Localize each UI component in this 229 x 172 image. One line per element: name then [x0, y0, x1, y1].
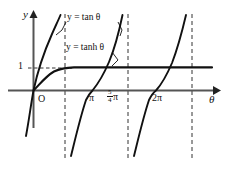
fraction-denominator: 4: [107, 96, 113, 104]
plot-canvas: [0, 0, 229, 172]
curve-label-tanh: y = tanh θ: [66, 43, 104, 53]
curve-tan-branch-2: [71, 15, 123, 156]
origin-label: O: [38, 94, 45, 104]
x-tick-label-five-quarter-pi: 5 4 π: [107, 89, 118, 104]
x-axis-label: θ: [209, 94, 214, 105]
y-tick-label-one: 1: [18, 61, 23, 71]
x-tick-label-two-pi: 2π: [152, 93, 162, 103]
fraction-pi-symbol: π: [113, 91, 118, 102]
y-axis-arrowhead: [30, 10, 38, 18]
x-tick-label-pi: π: [89, 93, 94, 103]
y-axis-label: y: [23, 9, 28, 20]
asymptote-lines: [65, 14, 192, 160]
fraction-numerator: 5: [107, 89, 113, 96]
math-figure: y θ O 1 π 5 4 π 2π y = tan θ y = tanh θ: [0, 0, 229, 172]
curve-tanh: [34, 67, 213, 90]
fraction-five-fourths: 5 4: [107, 89, 113, 104]
curve-label-tan: y = tan θ: [67, 13, 100, 23]
curve-tan-branch-3: [134, 15, 186, 156]
curve-tan-branch-1: [26, 15, 61, 136]
